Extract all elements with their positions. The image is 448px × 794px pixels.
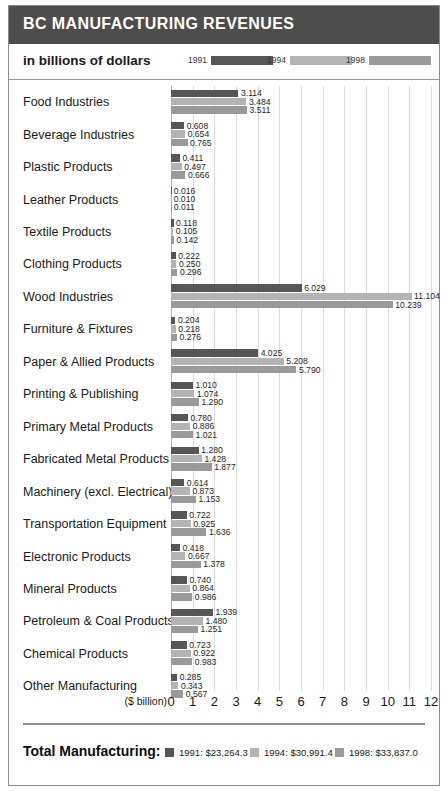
axis-tick-11: 11: [403, 694, 417, 709]
axis-tick-1: 1: [189, 694, 196, 709]
bar-1991: 0.016: [171, 187, 431, 194]
bar-group: 0.1180.1050.142: [171, 219, 431, 245]
category-label: Plastic Products: [23, 160, 113, 174]
axis-tick-4: 4: [254, 694, 261, 709]
bar-fill: [171, 398, 199, 405]
chart-row: Furniture & Fixtures0.2040.2180.276: [9, 313, 439, 345]
chart-row: Transportation Equipment0.7220.9251.636: [9, 508, 439, 540]
bar-fill: [171, 382, 193, 389]
bar-value-label: 0.276: [177, 332, 201, 342]
total-item-1991: 1991: $23,264.3: [165, 747, 248, 758]
bar-1994: 0.250: [171, 260, 431, 267]
footer-title: Total Manufacturing:: [23, 743, 160, 759]
bar-1991: 0.608: [171, 122, 431, 129]
bar-value-label: 5.790: [296, 365, 320, 375]
bar-1991: 0.285: [171, 674, 431, 681]
bar-1998: 1.251: [171, 626, 431, 633]
bar-fill: [171, 284, 302, 291]
bar-value-label: 0.011: [171, 202, 194, 212]
bar-fill: [171, 171, 185, 178]
legend-label-1998: 1998: [346, 55, 365, 65]
total-label-1991: 1991: $23,264.3: [179, 747, 248, 758]
bar-fill: [171, 106, 247, 113]
bar-fill: [171, 139, 188, 146]
category-label: Primary Metal Products: [23, 420, 153, 434]
category-label: Electronic Products: [23, 550, 131, 564]
bar-value-label: 1.153: [196, 494, 220, 504]
bar-group: 1.2801.4281.877: [171, 446, 431, 472]
bar-group: 0.0160.0100.011: [171, 186, 431, 212]
bar-fill: [171, 650, 191, 657]
axis-unit-label: ($ billion): [124, 695, 167, 707]
bar-value-label: 4.025: [258, 348, 282, 358]
bar-1991: 6.029: [171, 284, 431, 291]
chart-row: Textile Products0.1180.1050.142: [9, 216, 439, 248]
axis-tick-0: 0: [167, 694, 174, 709]
total-label-1998: 1998: $33,837.0: [349, 747, 418, 758]
axis-tick-9: 9: [362, 694, 369, 709]
axis-tick-3: 3: [232, 694, 239, 709]
axis-tick-2: 2: [211, 694, 218, 709]
category-label: Wood Industries: [23, 290, 113, 304]
chart-row: Paper & Allied Products4.0255.2085.790: [9, 346, 439, 378]
bar-fill: [171, 511, 187, 518]
chart-row: Leather Products0.0160.0100.011: [9, 183, 439, 215]
bar-fill: [171, 479, 184, 486]
category-label: Beverage Industries: [23, 128, 134, 142]
bar-fill: [171, 552, 185, 559]
bar-1998: 0.986: [171, 593, 431, 600]
legend-label-1994: 1994: [267, 55, 286, 65]
total-item-1998: 1998: $33,837.0: [335, 747, 418, 758]
chart-row: Machinery (excl. Electrical)0.6140.8731.…: [9, 475, 439, 507]
bar-1994: 0.010: [171, 195, 431, 202]
bar-fill: [171, 390, 194, 397]
chart-page: BC MANUFACTURING REVENUES in billions of…: [0, 0, 448, 794]
chart-row: Plastic Products0.4110.4970.666: [9, 151, 439, 183]
chart-row: Petroleum & Coal Products1.9391.4801.251: [9, 605, 439, 637]
chart-row: Wood Industries6.02911.10410.239: [9, 281, 439, 313]
bar-group: 0.7230.9220.983: [171, 641, 431, 667]
bar-value-label: 0.986: [192, 592, 216, 602]
bar-1991: 3.114: [171, 90, 431, 97]
bar-value-label: 0.765: [188, 138, 212, 148]
bar-1998: 1.636: [171, 528, 431, 535]
bar-fill: [171, 576, 187, 583]
bar-group: 0.2220.2500.296: [171, 251, 431, 277]
axis-tick-8: 8: [341, 694, 348, 709]
bar-fill: [171, 658, 192, 665]
bar-value-label: 0.296: [177, 267, 201, 277]
bar-fill: [171, 641, 187, 648]
legend-caption: in billions of dollars: [23, 53, 151, 68]
chart-row: Clothing Products0.2220.2500.296: [9, 248, 439, 280]
bar-1991: 0.222: [171, 252, 431, 259]
axis-tick-5: 5: [276, 694, 283, 709]
legend-swatch-1994: [290, 56, 352, 65]
bar-1998: 0.666: [171, 171, 431, 178]
bar-group: 1.9391.4801.251: [171, 608, 431, 634]
bar-fill: [171, 90, 238, 97]
bar-1994: 0.497: [171, 163, 431, 170]
bar-1994: 0.218: [171, 325, 431, 332]
bar-fill: [171, 366, 296, 373]
bar-fill: [171, 130, 185, 137]
bar-value-label: 10.239: [393, 300, 422, 310]
bar-1994: 1.428: [171, 455, 431, 462]
bar-value-label: 3.511: [247, 105, 270, 115]
bar-fill: [171, 487, 190, 494]
bar-1998: 0.296: [171, 269, 431, 276]
category-label: Clothing Products: [23, 257, 122, 271]
bar-group: 0.7400.8640.986: [171, 576, 431, 602]
footer: Total Manufacturing: 1991: $23,264.3 199…: [9, 729, 439, 785]
bar-fill: [171, 682, 178, 689]
axis-tick-6: 6: [297, 694, 304, 709]
bar-value-label: 0.666: [185, 170, 209, 180]
chart-row: Beverage Industries0.6080.6540.765: [9, 118, 439, 150]
chart-row: Primary Metal Products0.7800.8861.021: [9, 411, 439, 443]
bar-value-label: 1.290: [199, 397, 223, 407]
bar-1998: 3.511: [171, 106, 431, 113]
category-label: Furniture & Fixtures: [23, 322, 133, 336]
bar-fill: [171, 626, 198, 633]
bar-group: 4.0255.2085.790: [171, 349, 431, 375]
bar-1998: 0.765: [171, 139, 431, 146]
bar-1998: 1.153: [171, 496, 431, 503]
